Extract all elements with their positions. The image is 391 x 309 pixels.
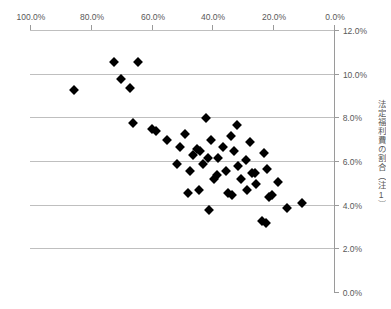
y-axis-tick	[334, 248, 339, 249]
x-axis-tick	[273, 25, 274, 30]
y-axis-tick-label: 10.0%	[343, 70, 367, 80]
gridline	[30, 248, 334, 249]
x-axis-tick	[91, 25, 92, 30]
y-axis-tick	[334, 205, 339, 206]
x-axis-tick-label: 20.0%	[262, 12, 286, 22]
data-point	[245, 137, 255, 147]
data-point	[176, 142, 186, 152]
chart-screenshot: 0.0%2.0%4.0%6.0%8.0%10.0%12.0% 0.0%20.0%…	[0, 0, 391, 309]
y-axis-tick	[334, 292, 339, 293]
x-axis-tick	[30, 25, 31, 30]
data-point	[180, 129, 190, 139]
data-point	[226, 131, 236, 141]
x-axis-tick-label: 60.0%	[141, 12, 165, 22]
data-point	[204, 205, 214, 215]
y-axis-tick-label: 4.0%	[343, 201, 362, 211]
data-point	[297, 199, 307, 209]
data-point	[185, 166, 195, 176]
y-axis-tick-label: 8.0%	[343, 113, 362, 123]
data-point	[242, 185, 252, 195]
data-point	[162, 135, 172, 145]
y-axis-tick-label: 2.0%	[343, 244, 362, 254]
gridline	[30, 74, 334, 75]
x-axis-tick	[212, 25, 213, 30]
data-point	[236, 175, 246, 185]
data-point	[183, 188, 193, 198]
data-point	[259, 148, 269, 158]
rotated-figure-container: 0.0%2.0%4.0%6.0%8.0%10.0%12.0% 0.0%20.0%…	[0, 0, 391, 309]
data-point	[262, 164, 272, 174]
y-axis-tick-label: 6.0%	[343, 157, 362, 167]
data-point	[221, 166, 231, 176]
x-axis-tick-label: 100.0%	[17, 12, 46, 22]
data-point	[218, 142, 228, 152]
data-point	[233, 161, 243, 171]
data-point	[109, 57, 119, 67]
data-point	[229, 146, 239, 156]
x-axis-tick-label: 0.0%	[325, 12, 344, 22]
data-point	[128, 118, 138, 128]
y-axis-tick-label: 12.0%	[343, 26, 367, 36]
x-axis-tick	[334, 25, 335, 30]
data-point	[206, 135, 216, 145]
x-axis-tick	[152, 25, 153, 30]
data-point	[133, 57, 143, 67]
gridline	[30, 117, 334, 118]
data-point	[194, 185, 204, 195]
data-point	[241, 155, 251, 165]
data-point	[116, 74, 126, 84]
data-point	[125, 83, 135, 93]
data-point	[69, 85, 79, 95]
y-axis-tick-label: 0.0%	[343, 288, 362, 298]
data-point	[232, 120, 242, 130]
plot-area	[30, 30, 335, 293]
y-axis-tick	[334, 30, 339, 31]
data-point	[273, 177, 283, 187]
y-axis-tick	[334, 161, 339, 162]
data-point	[201, 113, 211, 123]
gridline	[30, 30, 334, 31]
x-axis-tick-label: 40.0%	[201, 12, 225, 22]
y-axis-title: 法定福利費の割合（注1）	[363, 100, 385, 209]
y-axis-tick	[334, 117, 339, 118]
y-axis-tick	[334, 74, 339, 75]
gridline	[30, 161, 334, 162]
x-axis-tick-label: 80.0%	[80, 12, 104, 22]
data-point	[252, 179, 262, 189]
